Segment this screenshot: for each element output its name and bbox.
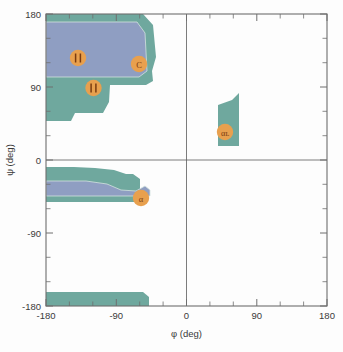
ramachandran-figure: -180 -90 0 90 180 180 90 0 -90 -180 φ (d… [0,0,343,352]
allowed-region-bottom-strip [46,292,149,306]
x-tick-label-3: 90 [252,310,263,321]
x-tick-label-4: 180 [319,310,335,321]
x-tick-label-2: 0 [184,310,189,321]
x-axis-label: φ (deg) [171,328,202,339]
marker-alpha-right-label: α [139,194,144,204]
marker-collagen-helix: C [131,56,147,72]
plot-canvas: -180 -90 0 90 180 180 90 0 -90 -180 φ (d… [0,0,343,352]
y-tick-label-0: 180 [25,9,41,20]
marker-circle [85,80,101,96]
y-tick-label-1: 90 [30,82,41,93]
marker-beta-parallel [85,80,101,96]
y-tick-label-3: -90 [27,228,41,239]
marker-collagen-label: C [136,60,142,70]
marker-circle [70,50,86,66]
marker-alpha-right: α [133,190,149,206]
marker-beta-antiparallel [70,50,86,66]
y-axis-label: ψ (deg) [4,144,15,176]
y-tick-label-4: -180 [22,301,41,312]
y-tick-label-2: 0 [36,155,41,166]
x-tick-label-0: -180 [36,310,55,321]
marker-alpha-left-label: αʟ [221,128,229,138]
marker-alpha-left: αʟ [217,124,233,140]
favored-region-beta [46,22,147,77]
x-tick-label-1: -90 [109,310,123,321]
